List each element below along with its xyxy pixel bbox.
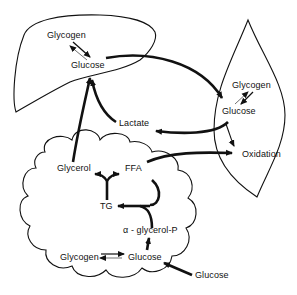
muscle-glycogen-label: Glycogen — [232, 81, 271, 90]
diagram-canvas — [0, 0, 297, 295]
alpha-glycerol-p-label: α - glycerol-P — [123, 226, 178, 235]
tg-to-ffa-arrow — [107, 174, 119, 181]
ffa-to-tg-curve — [150, 180, 159, 205]
lactate-to-liver-glucose-arrow — [92, 80, 116, 122]
oxidation-label: Oxidation — [242, 150, 281, 159]
external-glucose-label: Glucose — [195, 271, 229, 280]
liver-glycogen-to-glucose-arrow — [73, 42, 90, 57]
liver-glycogen-label: Glycogen — [47, 31, 86, 40]
tg-label: TG — [100, 202, 113, 211]
liver-glucose-label: Glucose — [71, 61, 105, 70]
muscle-glycogen-to-glucose-arrow — [241, 92, 253, 104]
muscle-glucose-to-oxidation-arrow — [226, 124, 234, 146]
muscle-glucose-label: Glucose — [222, 107, 256, 116]
glycerol-to-liver-glucose-arrow — [73, 78, 90, 162]
lactate-label: Lactate — [119, 119, 149, 128]
tg-to-glycerol-arrow — [95, 174, 107, 181]
muscle-glucose-to-glycogen-arrow — [235, 92, 248, 104]
adipose-glucose-label: Glucose — [128, 253, 162, 262]
liver-to-muscle-glucose-arrow — [106, 56, 222, 98]
muscle-glucose-to-lactate-arrow — [156, 122, 228, 133]
glycerol-label: Glycerol — [57, 164, 91, 173]
ffa-label: FFA — [125, 164, 142, 173]
glucose-to-alpha-glycerol-p-arrow — [147, 238, 149, 250]
adipose-glycogen-label: Glycogen — [60, 253, 99, 262]
liver-glucose-to-glycogen-arrow — [70, 46, 87, 60]
external-glucose-to-adipose-glucose-arrow — [164, 263, 192, 275]
ffa-to-oxidation-arrow — [147, 153, 232, 162]
